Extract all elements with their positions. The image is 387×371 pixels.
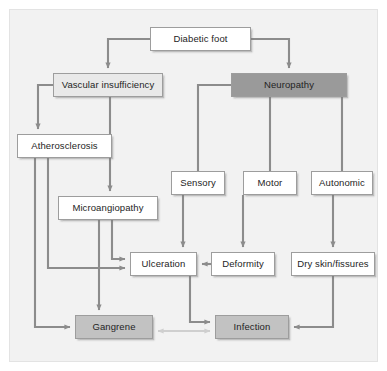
node-atherosclerosis[interactable]: Atherosclerosis [17, 134, 112, 158]
node-infection[interactable]: Infection [215, 315, 289, 339]
node-autonomic[interactable]: Autonomic [311, 171, 373, 195]
node-neuropathy[interactable]: Neuropathy [231, 73, 347, 97]
edge-microangiopathy-to-ulceration [112, 220, 125, 259]
edge-diabetic-foot-to-neuropathy [251, 39, 289, 68]
node-vascular-insufficiency[interactable]: Vascular insufficiency [53, 73, 163, 97]
node-dry-skin-fissures[interactable]: Dry skin/fissures [291, 252, 375, 276]
node-deformity[interactable]: Deformity [211, 252, 275, 276]
node-motor[interactable]: Motor [243, 171, 297, 195]
edge-vascular-to-atherosclerosis [38, 85, 53, 129]
edge-diabetic-foot-to-vascular [108, 39, 150, 68]
edge-neuropathy-to-sensory [198, 85, 231, 171]
node-gangrene[interactable]: Gangrene [75, 315, 153, 339]
edge-neuropathy-to-autonomic [342, 85, 347, 171]
node-microangiopathy[interactable]: Microangiopathy [58, 196, 158, 220]
diagram-figure: Diabetic foot Vascular insufficiency Neu… [0, 0, 387, 371]
edge-atherosclerosis-to-gangrene [35, 158, 70, 327]
edge-dry-skin-to-infection [294, 276, 333, 327]
node-sensory[interactable]: Sensory [171, 171, 225, 195]
node-ulceration[interactable]: Ulceration [130, 252, 197, 276]
edge-ulceration-to-infection [190, 276, 210, 322]
node-diabetic-foot[interactable]: Diabetic foot [150, 27, 251, 51]
